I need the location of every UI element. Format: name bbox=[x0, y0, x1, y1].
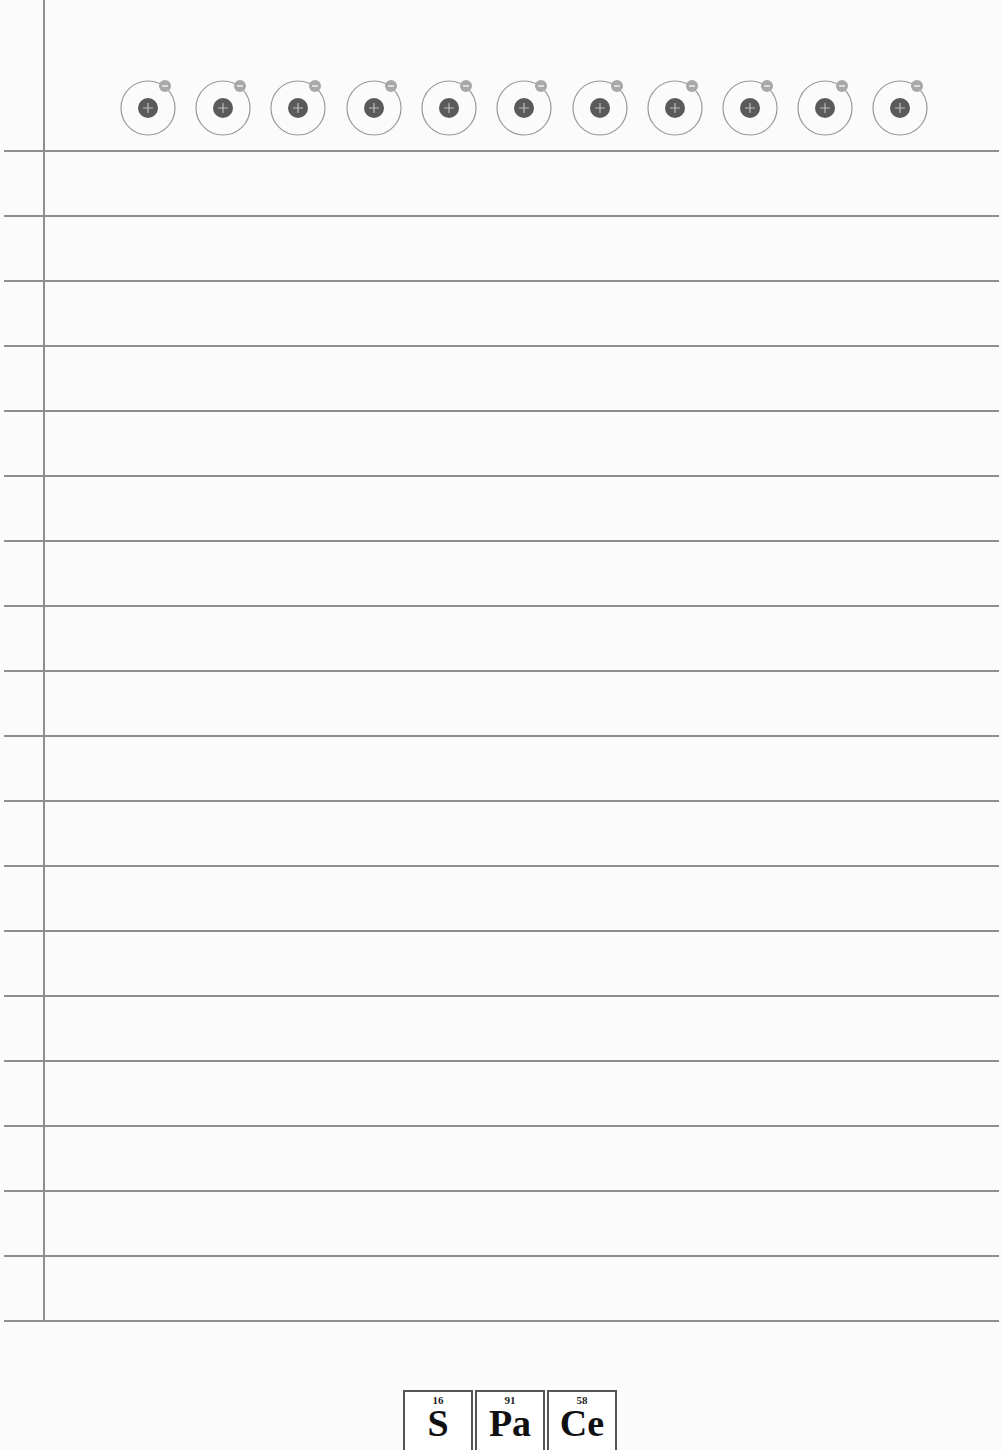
ruled-line bbox=[4, 1060, 999, 1062]
ruled-line bbox=[4, 1125, 999, 1127]
ruled-line bbox=[4, 475, 999, 477]
element-tile: 16 S bbox=[403, 1390, 473, 1450]
ruled-line bbox=[4, 1320, 999, 1322]
ruled-line bbox=[4, 670, 999, 672]
ruled-line bbox=[4, 150, 999, 152]
margin-line bbox=[43, 0, 45, 1321]
ruled-line bbox=[4, 930, 999, 932]
ruled-line bbox=[4, 995, 999, 997]
element-tiles-logo: 16 S 91 Pa 58 Ce bbox=[403, 1390, 617, 1450]
ruled-line bbox=[4, 605, 999, 607]
element-symbol: Pa bbox=[477, 1404, 543, 1442]
atom-icon bbox=[194, 79, 252, 137]
element-tile: 58 Ce bbox=[547, 1390, 617, 1450]
atom-icon-row bbox=[0, 0, 1003, 150]
ruled-line bbox=[4, 735, 999, 737]
ruled-line bbox=[4, 540, 999, 542]
ruled-line bbox=[4, 280, 999, 282]
ruled-line bbox=[4, 800, 999, 802]
atom-icon bbox=[420, 79, 478, 137]
atom-icon bbox=[721, 79, 779, 137]
ruled-line bbox=[4, 410, 999, 412]
atom-icon bbox=[571, 79, 629, 137]
ruled-line bbox=[4, 865, 999, 867]
ruled-line bbox=[4, 1190, 999, 1192]
ruled-line bbox=[4, 345, 999, 347]
element-symbol: S bbox=[405, 1404, 471, 1442]
ruled-line bbox=[4, 215, 999, 217]
atom-icon bbox=[646, 79, 704, 137]
element-symbol: Ce bbox=[549, 1404, 615, 1442]
atom-icon bbox=[871, 79, 929, 137]
atom-icon bbox=[345, 79, 403, 137]
atom-icon bbox=[269, 79, 327, 137]
atom-icon bbox=[495, 79, 553, 137]
ruled-line bbox=[4, 1255, 999, 1257]
atom-icon bbox=[796, 79, 854, 137]
element-tile: 91 Pa bbox=[475, 1390, 545, 1450]
atom-icon bbox=[119, 79, 177, 137]
